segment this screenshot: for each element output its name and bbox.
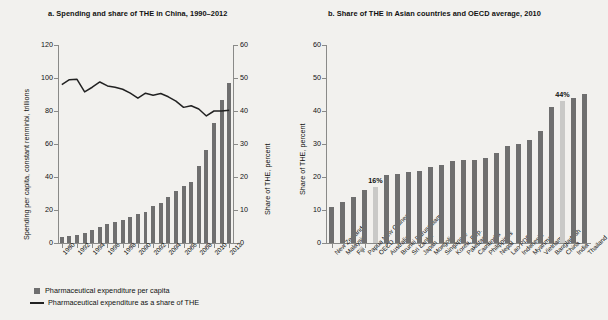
panel-b-bar bbox=[362, 190, 366, 243]
panel-b-x-tick bbox=[497, 244, 498, 248]
panel-b-x-tick bbox=[343, 244, 344, 248]
panel-b-x-tick bbox=[376, 244, 377, 248]
panel-b-bar bbox=[527, 140, 531, 243]
panel-b-bar bbox=[461, 160, 465, 243]
panel-b-x-tick bbox=[563, 244, 564, 248]
panel-b-x-tick bbox=[552, 244, 553, 248]
panel-b-x-tick bbox=[508, 244, 509, 248]
panel-b-data-label: 16% bbox=[368, 176, 384, 185]
panel-b-data-label: 44% bbox=[555, 90, 571, 99]
panel-b-bar bbox=[417, 171, 421, 243]
panel-b-y-tick-label: 30 bbox=[304, 139, 321, 148]
panel-b-bar bbox=[516, 144, 520, 243]
legend-label-line: Pharmaceutical expenditure as a share of… bbox=[48, 298, 199, 307]
panel-b-x-tick bbox=[420, 244, 421, 248]
panel-b-x-tick bbox=[475, 244, 476, 248]
panel-b-bar bbox=[384, 175, 388, 243]
panel-b-y-tick-label: 20 bbox=[304, 172, 321, 181]
panel-b-y-tick-label: 10 bbox=[304, 205, 321, 214]
panel-b-y-tick bbox=[322, 45, 326, 46]
panel-b-x-tick bbox=[365, 244, 366, 248]
panel-b-y-tick bbox=[322, 144, 326, 145]
panel-b-y-axis-title: Share of THE, percent bbox=[298, 124, 307, 195]
panel-b-y-tick-label: 40 bbox=[304, 106, 321, 115]
panel-b-y-tick-label: 60 bbox=[304, 40, 321, 49]
panel-b-bar bbox=[472, 160, 476, 243]
panel-b-y-tick bbox=[322, 243, 326, 244]
panel-b-x-tick bbox=[464, 244, 465, 248]
panel-b-bar bbox=[340, 202, 344, 243]
panel-b-bar-highlighted bbox=[373, 187, 377, 243]
panel-b-y-tick bbox=[322, 210, 326, 211]
panel-b-bar bbox=[329, 207, 333, 243]
panel-b-bar bbox=[494, 153, 498, 243]
panel-b-bar bbox=[571, 98, 575, 243]
panel-b-bar bbox=[395, 174, 399, 243]
panel-b-y-tick bbox=[322, 78, 326, 79]
panel-b-bar bbox=[406, 172, 410, 243]
panel-b-bar bbox=[505, 146, 509, 243]
panel-b-bar bbox=[351, 197, 355, 243]
panel-b-bar-highlighted bbox=[560, 101, 564, 243]
panel-b-y-tick-label: 0 bbox=[304, 238, 321, 247]
panel-b-y-tick bbox=[322, 111, 326, 112]
panel-a-share-line bbox=[0, 0, 290, 320]
panel-a: a. Spending and share of THE in China, 1… bbox=[0, 0, 290, 320]
panel-b-x-tick bbox=[541, 244, 542, 248]
panel-b-bar bbox=[538, 131, 542, 243]
panel-b-x-tick bbox=[409, 244, 410, 248]
panel-b-x-tick bbox=[354, 244, 355, 248]
panel-b-x-tick bbox=[574, 244, 575, 248]
legend-line-swatch bbox=[30, 302, 44, 304]
panel-b-y-tick bbox=[322, 177, 326, 178]
panel-b-x-tick bbox=[486, 244, 487, 248]
panel-b-x-tick bbox=[387, 244, 388, 248]
panel-b-bar bbox=[483, 158, 487, 243]
panel-b-x-tick bbox=[519, 244, 520, 248]
panel-b-x-tick bbox=[442, 244, 443, 248]
panel-b-x-tick bbox=[585, 244, 586, 248]
panel-b-title: b. Share of THE in Asian countries and O… bbox=[328, 9, 541, 18]
legend-label-bar: Pharmaceutical expenditure per capita bbox=[45, 286, 170, 295]
panel-b-bar bbox=[450, 161, 454, 244]
panel-b-x-tick bbox=[431, 244, 432, 248]
panel-b-x-tick bbox=[530, 244, 531, 248]
panel-b-y-axis bbox=[326, 45, 327, 244]
panel-b: b. Share of THE in Asian countries and O… bbox=[290, 0, 606, 320]
panel-b-bar bbox=[582, 94, 586, 243]
panel-b-bar bbox=[439, 165, 443, 243]
legend-bar-swatch bbox=[34, 288, 40, 294]
panel-b-x-tick bbox=[332, 244, 333, 248]
panel-b-x-tick bbox=[453, 244, 454, 248]
panel-b-bar bbox=[428, 167, 432, 243]
panel-b-y-tick-label: 50 bbox=[304, 73, 321, 82]
panel-b-bar bbox=[549, 107, 553, 243]
panel-b-x-tick bbox=[398, 244, 399, 248]
